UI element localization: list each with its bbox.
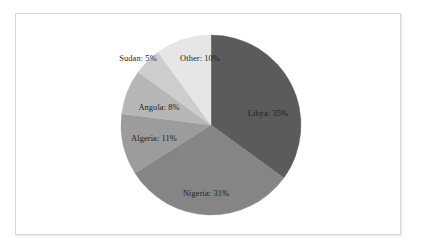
pie-svg xyxy=(16,14,402,236)
pie-plot-area: Libya: 35%Nigeria: 31%Algeria: 11%Angola… xyxy=(16,14,402,236)
chart-frame: Libya: 35%Nigeria: 31%Algeria: 11%Angola… xyxy=(15,13,401,235)
pie-slice-group xyxy=(121,35,301,215)
pie-chart-figure: Libya: 35%Nigeria: 31%Algeria: 11%Angola… xyxy=(0,0,421,250)
